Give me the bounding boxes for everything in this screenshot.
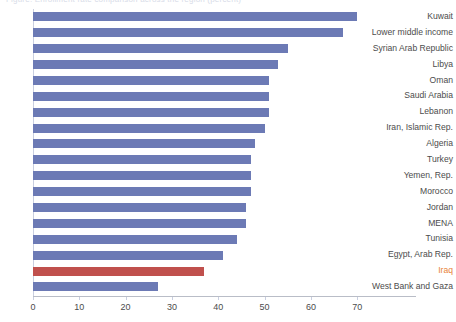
category-label: Algeria [426, 136, 453, 152]
bar[interactable] [33, 108, 269, 117]
bar[interactable] [33, 92, 269, 101]
tick-label: 0 [30, 302, 35, 312]
tick-label: 10 [74, 302, 84, 312]
bar-row: MENA [33, 216, 385, 232]
category-label: Iraq [438, 263, 453, 279]
tick-mark [311, 297, 312, 300]
tick-label: 40 [213, 302, 223, 312]
bar[interactable] [33, 124, 265, 133]
category-label: Libya [432, 57, 453, 73]
bar[interactable] [33, 219, 246, 228]
category-label: West Bank and Gaza [372, 279, 453, 295]
tick-mark [357, 297, 358, 300]
bar-row: Yemen, Rep. [33, 168, 385, 184]
tick-label: 20 [121, 302, 131, 312]
bar[interactable] [33, 235, 237, 244]
bar-row: Saudi Arabia [33, 88, 385, 104]
category-label: MENA [428, 216, 453, 232]
bar[interactable] [33, 60, 278, 69]
category-label: Jordan [427, 200, 453, 216]
bar[interactable] [33, 203, 246, 212]
tick-label: 50 [260, 302, 270, 312]
bar[interactable] [33, 76, 269, 85]
category-label: Syrian Arab Republic [373, 41, 453, 57]
category-label: Tunisia [426, 231, 453, 247]
category-label: Yemen, Rep. [404, 168, 453, 184]
tick-mark [33, 297, 34, 300]
bar-row: Iraq [33, 263, 385, 279]
category-label: Oman [430, 73, 453, 89]
plot-area: KuwaitLower middle incomeSyrian Arab Rep… [33, 9, 385, 295]
bar-row: Lebanon [33, 104, 385, 120]
category-label: Lower middle income [372, 25, 453, 41]
bar[interactable] [33, 28, 343, 37]
bar[interactable] [33, 171, 251, 180]
category-label: Egypt, Arab Rep. [388, 247, 453, 263]
category-label: Saudi Arabia [404, 88, 453, 104]
bar[interactable] [33, 155, 251, 164]
category-label: Morocco [420, 184, 453, 200]
chart-title-clipped: Figure: Enrollment rate comparison acros… [0, 0, 456, 7]
bar-row: Libya [33, 57, 385, 73]
bar-row: Morocco [33, 184, 385, 200]
bar[interactable] [33, 251, 223, 260]
chart-title-text: Figure: Enrollment rate comparison acros… [6, 0, 241, 4]
bar-row: Turkey [33, 152, 385, 168]
bar[interactable] [33, 187, 251, 196]
category-label: Turkey [427, 152, 453, 168]
bar[interactable] [33, 282, 158, 291]
bar-row: Jordan [33, 200, 385, 216]
tick-mark [172, 297, 173, 300]
bar-row: Oman [33, 73, 385, 89]
bar-row: Iran, Islamic Rep. [33, 120, 385, 136]
bar-row: Syrian Arab Republic [33, 41, 385, 57]
tick-label: 60 [306, 302, 316, 312]
bar[interactable] [33, 12, 357, 21]
category-label: Kuwait [427, 9, 453, 25]
bar-chart: Figure: Enrollment rate comparison acros… [0, 0, 456, 322]
bar[interactable] [33, 139, 255, 148]
tick-mark [79, 297, 80, 300]
tick-mark [126, 297, 127, 300]
bar-row: Tunisia [33, 231, 385, 247]
bar[interactable] [33, 44, 288, 53]
category-label: Iran, Islamic Rep. [386, 120, 453, 136]
tick-label: 70 [352, 302, 362, 312]
bar-row: Kuwait [33, 9, 385, 25]
bar-row: Egypt, Arab Rep. [33, 247, 385, 263]
bar-row: Algeria [33, 136, 385, 152]
bar-row: Lower middle income [33, 25, 385, 41]
tick-label: 30 [167, 302, 177, 312]
category-label: Lebanon [420, 104, 453, 120]
bar-row: West Bank and Gaza [33, 279, 385, 295]
x-axis-ticks: 010203040506070 [0, 297, 456, 322]
tick-mark [218, 297, 219, 300]
tick-mark [265, 297, 266, 300]
bar-highlight[interactable] [33, 267, 204, 276]
